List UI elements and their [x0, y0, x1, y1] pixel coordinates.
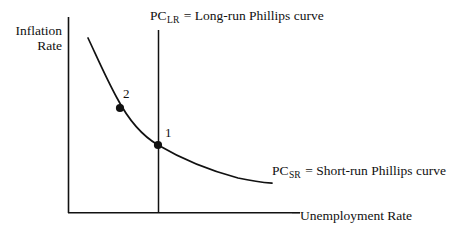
point-1-label: 1 [165, 126, 172, 140]
point-1-marker [154, 141, 162, 149]
long-run-curve-subscript: LR [167, 14, 181, 25]
short-run-phillips-curve-path [88, 38, 272, 183]
point-2-marker [116, 104, 124, 112]
short-run-phillips-curve-label: PCSR = Short-run Phillips curve [272, 164, 446, 179]
long-run-phillips-curve-label: PCLR = Long-run Phillips curve [150, 9, 324, 24]
long-run-curve-description: = Long-run Phillips curve [184, 8, 324, 23]
y-axis-title-line-2: Rate [4, 39, 62, 54]
x-axis-title: Unemployment Rate [300, 209, 412, 224]
phillips-curve-figure: Inflation Rate Unemployment Rate PCLR = … [0, 0, 474, 243]
long-run-curve-symbol: PC [150, 8, 167, 23]
short-run-curve-subscript: SR [289, 169, 302, 180]
short-run-curve-description: = Short-run Phillips curve [305, 163, 446, 178]
y-axis-title: Inflation Rate [4, 24, 62, 53]
point-2-label: 2 [123, 87, 130, 101]
short-run-curve-symbol: PC [272, 163, 289, 178]
y-axis-title-line-1: Inflation [4, 24, 62, 39]
plot-canvas [0, 0, 474, 243]
axes-group [68, 17, 292, 213]
